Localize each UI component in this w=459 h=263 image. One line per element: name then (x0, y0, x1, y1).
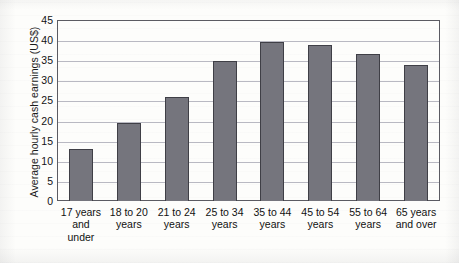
x-tick-label: 55 to 64 years (344, 206, 392, 231)
x-tick-label: 18 to 20 years (105, 206, 153, 231)
gridline (58, 122, 439, 123)
gridline (58, 162, 439, 163)
y-tick-label: 0 (47, 195, 53, 207)
y-tick-label: 25 (41, 94, 53, 106)
y-tick-label: 40 (41, 34, 53, 46)
gridline (58, 182, 439, 183)
y-tick-label: 35 (41, 54, 53, 66)
y-tick-label: 15 (41, 135, 53, 147)
plot-area (57, 20, 440, 201)
gridline (58, 41, 439, 42)
chart-figure: Average hourly cash earnings (US$) 05101… (0, 0, 459, 263)
y-tick-label: 45 (41, 14, 53, 26)
x-tick-label: 25 to 34 years (201, 206, 249, 231)
y-tick-label: 5 (47, 175, 53, 187)
x-axis-tick-labels: 17 years and under18 to 20 years21 to 24… (57, 206, 440, 258)
gridlines (58, 21, 439, 200)
x-tick-label: 21 to 24 years (153, 206, 201, 231)
x-tick-label: 17 years and under (57, 206, 105, 243)
x-tick-label: 35 to 44 years (249, 206, 297, 231)
y-tick-label: 20 (41, 115, 53, 127)
y-axis-tick-labels: 051015202530354045 (22, 20, 53, 201)
y-tick-label: 30 (41, 74, 53, 86)
x-tick-label: 65 years and over (392, 206, 440, 231)
gridline (58, 142, 439, 143)
y-tick-label: 10 (41, 155, 53, 167)
gridline (58, 81, 439, 82)
x-tick-label: 45 to 54 years (296, 206, 344, 231)
gridline (58, 61, 439, 62)
gridline (58, 101, 439, 102)
